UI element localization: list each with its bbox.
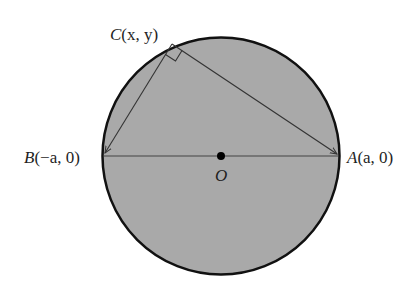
label-O: O	[215, 166, 227, 185]
circle-diagram: C(x, y) B(−a, 0) A(a, 0) O	[0, 0, 419, 295]
label-A: A(a, 0)	[346, 148, 393, 167]
label-C: C(x, y)	[110, 25, 158, 44]
label-B: B(−a, 0)	[24, 148, 80, 167]
center-point-O	[217, 152, 225, 160]
